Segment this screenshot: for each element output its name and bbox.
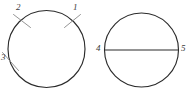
left-circle-group <box>3 11 86 88</box>
label-2: 2 <box>16 3 21 12</box>
right-circle-group <box>105 13 179 87</box>
label-3: 3 <box>1 53 6 62</box>
label-5: 5 <box>181 44 186 53</box>
label-1: 1 <box>73 3 78 12</box>
geometry-figure: 1 2 3 4 5 <box>0 0 193 97</box>
left-circle-outline <box>8 11 85 88</box>
label-4: 4 <box>96 44 101 53</box>
